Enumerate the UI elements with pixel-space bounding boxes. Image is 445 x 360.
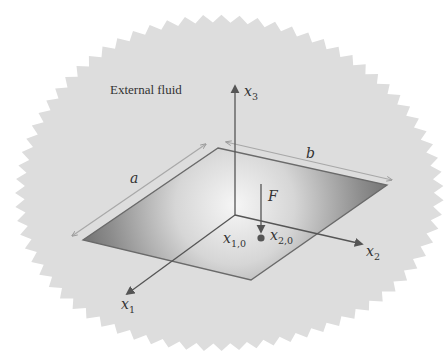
external-fluid-label: External fluid (110, 82, 182, 97)
dimension-b-label: b (306, 145, 315, 161)
dimension-a-label: a (130, 170, 138, 186)
plate-in-fluid-diagram: External fluid x3 x2 x1 a b F x1,0 x2,0 (0, 0, 445, 360)
force-application-point (257, 234, 264, 241)
force-label: F (267, 188, 279, 204)
